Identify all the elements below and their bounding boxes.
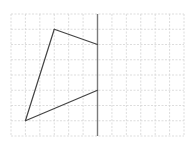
reflection-grid-diagram (0, 0, 194, 146)
shape-edge (54, 29, 97, 44)
